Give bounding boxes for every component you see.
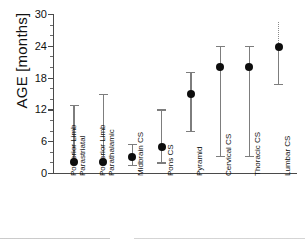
- x-axis-label: Pyramid: [195, 112, 204, 176]
- y-axis-tick: [48, 78, 53, 79]
- error-bar-cap-upper: [245, 46, 254, 47]
- y-axis-minor-tick: [50, 67, 53, 68]
- x-axis-label-line: Posterior Limb: [98, 112, 107, 176]
- y-axis-line: [53, 14, 54, 173]
- x-axis-label-line: Parathalamic: [107, 112, 116, 176]
- x-axis-label: Posterior LimbParastriatal: [69, 112, 87, 176]
- data-point-marker: [245, 63, 253, 71]
- y-axis-minor-tick: [50, 152, 53, 153]
- y-axis-minor-tick: [50, 162, 53, 163]
- error-bar-cap-upper: [216, 46, 225, 47]
- error-bar-lower: [220, 67, 221, 156]
- data-point-marker: [275, 43, 283, 51]
- data-point-marker: [187, 90, 195, 98]
- x-axis-label: Midbrain CS: [136, 112, 145, 176]
- error-bar-cap-upper: [157, 109, 166, 110]
- error-bar-upper: [161, 109, 162, 146]
- y-axis-tick-label: 0: [41, 168, 47, 179]
- y-axis-tick-label: 6: [41, 136, 47, 147]
- x-axis-label: Pons CS: [166, 112, 175, 176]
- x-axis-label-line: Pyramid: [195, 112, 204, 176]
- scan-artifact: [0, 238, 305, 239]
- y-axis-minor-tick: [50, 88, 53, 89]
- x-axis-label-line: Thoracic CS: [253, 112, 262, 176]
- y-axis-minor-tick: [50, 35, 53, 36]
- x-axis-label: Posterior LimbParathalamic: [98, 112, 116, 176]
- x-axis-label-line: Pons CS: [166, 112, 175, 176]
- error-bar-cap-lower: [274, 84, 283, 85]
- y-axis-title: AGE [months]: [13, 0, 30, 126]
- error-bar-lower: [249, 67, 250, 156]
- error-bar-lower: [190, 94, 191, 131]
- error-bar-cap-lower: [157, 162, 166, 163]
- data-point-marker: [216, 63, 224, 71]
- x-axis-label-line: Posterior Limb: [69, 112, 78, 176]
- x-axis-label: Lumbar CS: [283, 112, 292, 176]
- x-axis-label: Thoracic CS: [253, 112, 262, 176]
- y-axis-tick-label: 24: [35, 40, 47, 51]
- y-axis-minor-tick: [50, 99, 53, 100]
- y-axis-minor-tick: [50, 131, 53, 132]
- x-axis-label-line: Parastriatal: [78, 112, 87, 176]
- error-bar-cap-upper: [99, 94, 108, 95]
- y-axis-minor-tick: [50, 25, 53, 26]
- y-axis-tick: [48, 109, 53, 110]
- y-axis-tick: [48, 14, 53, 15]
- y-axis-minor-tick: [50, 120, 53, 121]
- y-axis-tick-label: 18: [35, 72, 47, 83]
- y-axis-tick-label: 12: [35, 104, 47, 115]
- x-axis-label-line: Lumbar CS: [283, 112, 292, 176]
- x-axis-label-line: Midbrain CS: [136, 112, 145, 176]
- y-axis-minor-tick: [50, 56, 53, 57]
- y-axis-tick: [48, 46, 53, 47]
- y-axis-tick-label: 30: [35, 9, 47, 20]
- y-axis-tick: [48, 141, 53, 142]
- error-bar-cap-upper: [186, 72, 195, 73]
- error-bar-lower: [278, 47, 279, 84]
- chart-figure: AGE [months] 0612182430 Posterior LimbPa…: [0, 0, 305, 242]
- y-axis-tick: [48, 173, 53, 174]
- x-axis-label-line: Cervical CS: [224, 112, 233, 176]
- x-axis-label: Cervical CS: [224, 112, 233, 176]
- error-bar-cap-upper: [70, 105, 79, 106]
- data-point-marker: [158, 143, 166, 151]
